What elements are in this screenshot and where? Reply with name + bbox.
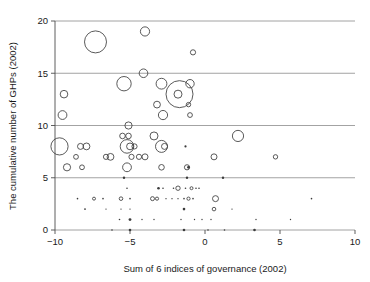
data-point-bubble: [232, 130, 243, 141]
data-point-bubble: [80, 165, 85, 170]
data-point-bubble: [117, 77, 131, 91]
data-point-bubble: [83, 143, 90, 150]
x-tick-label-4: 10: [350, 236, 361, 247]
data-point-bubble: [129, 198, 131, 200]
scatter-plot-svg: −10−50510 05101520 Sum of 6 indices of g…: [0, 0, 370, 282]
data-point-bubble: [77, 198, 79, 200]
data-point-bubble: [180, 219, 181, 220]
data-point-bubble: [290, 219, 291, 220]
y-axis-title: The cumulative number of GHPs (2002): [7, 42, 18, 210]
data-point-bubble: [126, 133, 132, 139]
data-point-bubble: [194, 219, 195, 220]
data-point-bubble: [207, 229, 209, 231]
data-point-bubble: [231, 208, 232, 209]
data-point-bubble: [140, 27, 149, 36]
data-point-bubble: [129, 218, 132, 221]
data-point-bubble: [171, 198, 172, 199]
data-point-bubble: [123, 177, 125, 179]
data-point-bubble: [183, 229, 186, 232]
data-point-bubble: [129, 154, 134, 159]
data-point-bubble: [105, 208, 106, 209]
data-points: [51, 27, 312, 231]
data-point-bubble: [51, 138, 68, 155]
data-point-bubble: [188, 113, 193, 118]
data-point-bubble: [183, 208, 186, 211]
data-point-bubble: [154, 101, 161, 108]
data-point-bubble: [111, 229, 113, 231]
data-point-bubble: [74, 154, 79, 159]
bubble-chart-figure: −10−50510 05101520 Sum of 6 indices of g…: [0, 0, 370, 282]
data-point-bubble: [311, 198, 313, 200]
x-tick-label-0: −10: [47, 236, 63, 247]
data-point-bubble: [157, 187, 160, 190]
data-point-bubble: [119, 197, 123, 201]
data-point-bubble: [210, 219, 211, 220]
data-point-bubble: [192, 198, 194, 200]
data-point-bubble: [212, 207, 216, 211]
data-point-bubble: [84, 208, 86, 210]
data-point-bubble: [132, 144, 137, 149]
data-point-bubble: [183, 198, 185, 200]
x-axis-ticks: −10−50510: [47, 230, 360, 247]
data-point-bubble: [187, 197, 190, 200]
data-point-bubble: [273, 155, 277, 159]
data-point-bubble: [177, 198, 178, 199]
data-point-bubble: [159, 165, 165, 171]
data-point-bubble: [198, 187, 200, 189]
data-point-bubble: [156, 78, 167, 89]
x-axis-title: Sum of 6 indices of governance (2002): [123, 263, 286, 274]
data-point-bubble: [107, 153, 114, 160]
data-point-bubble: [166, 81, 193, 108]
data-point-bubble: [123, 163, 132, 172]
data-point-bubble: [173, 187, 175, 189]
data-point-bubble: [119, 219, 121, 221]
data-point-bubble: [201, 219, 202, 220]
x-tick-label-1: −5: [125, 236, 136, 247]
data-point-bubble: [184, 145, 186, 147]
data-point-bubble: [187, 166, 190, 169]
data-point-bubble: [78, 143, 84, 149]
data-point-bubble: [60, 90, 68, 98]
y-tick-label-4: 20: [37, 15, 48, 26]
data-point-bubble: [186, 177, 188, 179]
data-point-bubble: [85, 31, 107, 53]
data-point-bubble: [255, 219, 256, 220]
data-point-bubble: [127, 143, 134, 150]
data-point-bubble: [176, 186, 180, 190]
data-point-bubble: [158, 110, 167, 119]
data-point-bubble: [120, 133, 126, 139]
data-point-bubble: [120, 208, 121, 209]
data-point-bubble: [155, 197, 158, 200]
data-point-bubble: [162, 187, 164, 189]
y-axis-ticks: 05101520: [37, 15, 55, 235]
y-tick-label-2: 10: [37, 120, 48, 131]
data-point-bubble: [253, 229, 256, 232]
y-tick-label-3: 15: [37, 68, 48, 79]
data-point-bubble: [142, 154, 148, 160]
data-point-bubble: [213, 196, 219, 202]
data-point-bubble: [162, 143, 168, 149]
x-tick-label-3: 5: [277, 236, 282, 247]
y-tick-label-0: 0: [43, 224, 48, 235]
data-point-bubble: [185, 187, 187, 189]
data-point-bubble: [102, 198, 104, 200]
data-point-bubble: [141, 219, 142, 220]
data-point-bubble: [211, 154, 217, 160]
y-tick-label-1: 5: [43, 172, 48, 183]
data-point-bubble: [190, 187, 193, 190]
data-point-bubble: [190, 50, 195, 55]
data-point-bubble: [222, 177, 224, 179]
data-point-bubble: [153, 219, 154, 220]
data-point-bubble: [174, 90, 182, 98]
data-point-bubble: [93, 197, 96, 200]
data-point-bubble: [58, 111, 67, 120]
data-point-bubble: [63, 164, 70, 171]
data-point-bubble: [129, 229, 132, 232]
x-tick-label-2: 0: [202, 236, 207, 247]
data-point-bubble: [136, 154, 141, 159]
data-point-bubble: [186, 80, 194, 88]
data-point-bubble: [150, 132, 158, 140]
data-point-bubble: [165, 198, 166, 199]
data-point-bubble: [195, 187, 197, 189]
data-point-bubble: [151, 197, 155, 201]
